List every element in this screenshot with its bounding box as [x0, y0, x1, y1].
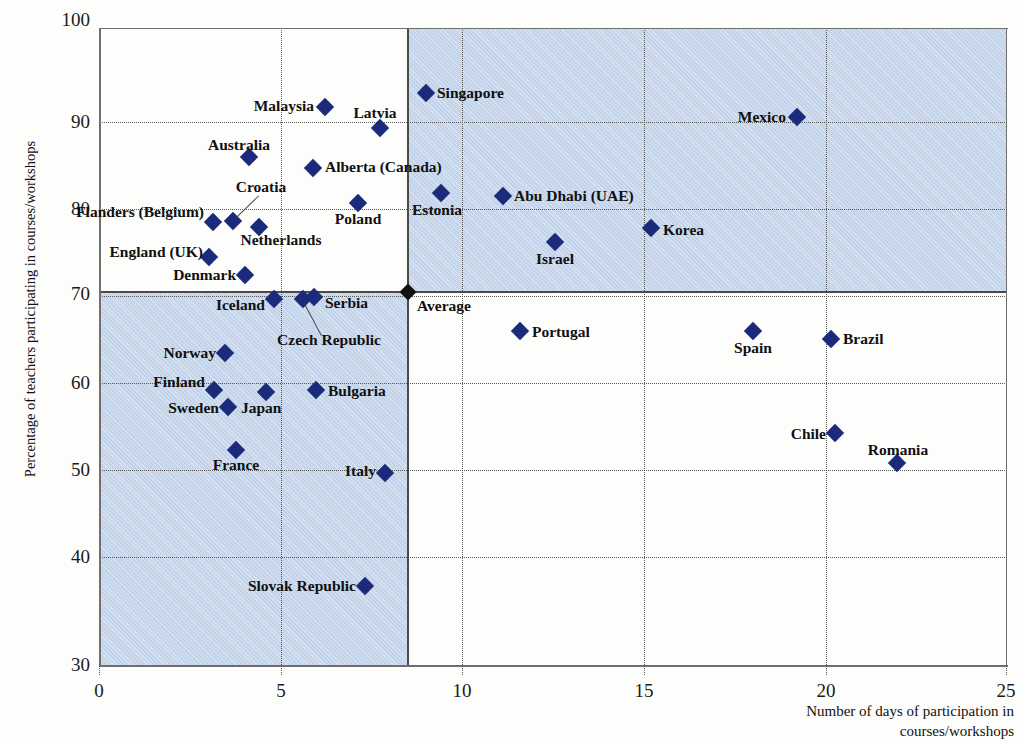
label-chile: Chile	[791, 426, 826, 442]
label-norway: Norway	[163, 345, 216, 361]
data-point-chile[interactable]	[826, 424, 844, 442]
data-point-brazil[interactable]	[822, 330, 840, 348]
plot-border-right	[1006, 28, 1007, 667]
label-mexico: Mexico	[738, 109, 786, 125]
scatter-chart-figure: 0 5 10 15 20 25 30 40 50 60 70 80 90 100…	[0, 0, 1022, 742]
x-tick-0	[99, 665, 100, 675]
label-finland: Finland	[153, 374, 205, 390]
label-brazil: Brazil	[843, 331, 883, 347]
average-line-vertical	[407, 28, 409, 665]
label-estonia: Estonia	[412, 202, 462, 218]
y-axis-line	[99, 28, 101, 667]
label-flanders-belgium: Flanders (Belgium)	[76, 204, 204, 220]
y-tick-label-40: 40	[20, 546, 90, 568]
shaded-quadrant-upper-right	[408, 29, 1006, 292]
x-tick-label-25: 25	[997, 680, 1016, 702]
gridline-y-60	[99, 383, 1007, 384]
plot-border-top	[99, 28, 1008, 29]
label-serbia: Serbia	[325, 295, 368, 311]
label-malaysia: Malaysia	[254, 98, 314, 114]
x-axis-title: Number of days of participation in cours…	[714, 702, 1014, 741]
label-korea: Korea	[663, 222, 704, 238]
x-tick-label-15: 15	[635, 680, 654, 702]
label-japan: Japan	[241, 400, 282, 416]
gridline-y-40	[99, 557, 1007, 558]
data-point-alberta-canada[interactable]	[304, 159, 322, 177]
x-axis-line	[99, 665, 1008, 667]
x-tick-5	[281, 665, 282, 675]
gridline-y-80	[99, 209, 1007, 210]
x-tick-25	[1006, 665, 1007, 675]
data-point-spain[interactable]	[744, 322, 762, 340]
label-australia: Australia	[208, 137, 270, 153]
gridline-x-10	[462, 28, 463, 665]
label-israel: Israel	[536, 251, 574, 267]
label-average: Average	[417, 298, 471, 314]
x-tick-label-5: 5	[276, 680, 286, 702]
label-alberta-canada: Alberta (Canada)	[325, 159, 442, 175]
label-czech-republic: Czech Republic	[277, 332, 381, 348]
data-point-portugal[interactable]	[511, 322, 529, 340]
label-netherlands: Netherlands	[241, 232, 322, 248]
data-point-denmark[interactable]	[236, 266, 254, 284]
y-tick-label-100: 100	[20, 9, 90, 31]
label-iceland: Iceland	[216, 297, 265, 313]
x-tick-label-10: 10	[453, 680, 472, 702]
label-sweden: Sweden	[168, 400, 219, 416]
x-tick-15	[644, 665, 645, 675]
label-singapore: Singapore	[437, 85, 504, 101]
average-line-horizontal	[99, 291, 1007, 293]
label-portugal: Portugal	[532, 324, 590, 340]
label-denmark: Denmark	[173, 267, 236, 283]
label-bulgaria: Bulgaria	[328, 383, 386, 399]
label-spain: Spain	[734, 340, 772, 356]
y-tick-label-30: 30	[20, 654, 90, 676]
label-abu-dhabi-uae: Abu Dhabi (UAE)	[514, 188, 634, 204]
label-slovak-republic: Slovak Republic	[248, 578, 356, 594]
gridline-x-20	[826, 28, 827, 665]
label-poland: Poland	[335, 211, 382, 227]
data-point-flanders-belgium[interactable]	[204, 213, 222, 231]
gridline-x-15	[644, 28, 645, 665]
data-point-malaysia[interactable]	[316, 98, 334, 116]
x-tick-label-0: 0	[94, 680, 104, 702]
y-axis-title: Percentage of teachers participating in …	[21, 119, 39, 499]
label-romania: Romania	[868, 442, 928, 458]
label-england-uk: England (UK)	[110, 244, 203, 260]
gridline-y-90	[99, 122, 1007, 123]
label-france: France	[213, 457, 259, 473]
x-tick-20	[826, 665, 827, 675]
label-croatia: Croatia	[236, 179, 287, 195]
x-tick-label-20: 20	[817, 680, 836, 702]
x-tick-10	[462, 665, 463, 675]
label-latvia: Latvia	[353, 105, 396, 121]
label-italy: Italy	[345, 463, 376, 479]
